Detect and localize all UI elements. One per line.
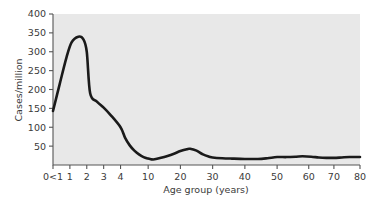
y-tick-label: 350 [28, 27, 46, 38]
y-tick-label: 100 [28, 122, 46, 133]
y-axis-ticks: 50100150200250300350400 [28, 8, 53, 151]
x-tick-label: 1 [67, 171, 73, 182]
y-tick-label: 50 [34, 141, 46, 152]
x-tick-label: 4 [118, 171, 124, 182]
x-tick-label: 70 [328, 171, 340, 182]
x-tick-label: 0<1 [43, 171, 63, 182]
x-tick-label: 2 [84, 171, 90, 182]
y-tick-label: 250 [28, 65, 46, 76]
x-tick-label: 80 [354, 171, 366, 182]
x-tick-label: 50 [271, 171, 283, 182]
x-tick-label: 10 [142, 171, 154, 182]
y-axis-title: Cases/million [13, 58, 24, 121]
x-tick-label: 40 [239, 171, 251, 182]
cases-per-million-by-age-line-chart: 50100150200250300350400 0<11234102030405… [0, 0, 377, 203]
x-tick-label: 60 [303, 171, 315, 182]
x-tick-label: 20 [174, 171, 186, 182]
y-tick-label: 150 [28, 103, 46, 114]
x-axis-title: Age group (years) [163, 184, 249, 195]
x-tick-label: 3 [101, 171, 107, 182]
x-axis-ticks: 0<112341020304050607080 [43, 165, 366, 182]
chart-figure: 50100150200250300350400 0<11234102030405… [0, 0, 377, 203]
x-tick-label: 30 [207, 171, 219, 182]
y-tick-label: 200 [28, 84, 46, 95]
plot-area-background [53, 14, 360, 165]
y-tick-label: 400 [28, 8, 46, 19]
y-tick-label: 300 [28, 46, 46, 57]
